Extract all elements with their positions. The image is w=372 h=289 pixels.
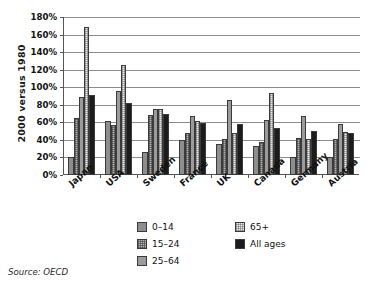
x-tick-label: UK (215, 171, 232, 188)
legend-label: All ages (250, 240, 285, 249)
x-tick-label: Canada (252, 156, 287, 189)
legend-item[interactable]: 0–14 (137, 222, 174, 232)
legend-label: 15–24 (152, 240, 179, 249)
x-tick-mark (174, 175, 175, 178)
x-tick-label: Sweden (141, 154, 177, 188)
x-tick-mark (100, 175, 101, 178)
legend-item[interactable]: 65+ (235, 222, 269, 232)
legend-item[interactable]: 25–64 (137, 256, 179, 266)
x-tick-label: Germany (289, 150, 330, 188)
legend-swatch (235, 222, 245, 232)
x-tick-mark (137, 175, 138, 178)
chart-figure: 2000 versus 1980 0%20%40%60%80%100%120%1… (0, 0, 372, 289)
x-tick-mark (248, 175, 249, 178)
x-tick-mark (322, 175, 323, 178)
x-axis-tick-labels: JapanUSASwedenFranceUKCanadaGermanyAustr… (0, 0, 372, 289)
x-tick-label: Japan (67, 162, 95, 188)
x-tick-label: Austria (326, 156, 360, 188)
x-tick-mark (285, 175, 286, 178)
legend-item[interactable]: 15–24 (137, 239, 179, 249)
legend-label: 25–64 (152, 257, 179, 266)
x-tick-mark (211, 175, 212, 178)
legend-swatch (137, 239, 147, 249)
legend-item[interactable]: All ages (235, 239, 285, 249)
legend-swatch (137, 256, 147, 266)
legend-swatch (235, 239, 245, 249)
x-tick-label: USA (104, 167, 126, 188)
source-note: Source: OECD (8, 267, 68, 277)
legend-label: 0–14 (152, 223, 174, 232)
legend-label: 65+ (250, 223, 269, 232)
x-tick-label: France (178, 158, 210, 188)
legend-swatch (137, 222, 147, 232)
